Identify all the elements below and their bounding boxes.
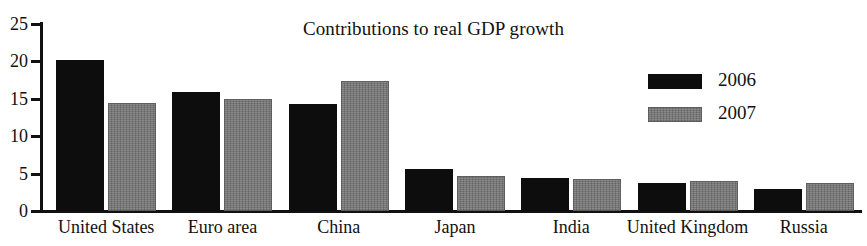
y-axis-tick	[31, 23, 41, 26]
bar-china-2007	[341, 81, 389, 211]
bar-china-2006	[289, 104, 337, 211]
bar-india-2007	[573, 179, 621, 211]
bar-united-states-2006	[56, 60, 104, 211]
bar-united-kingdom-2006	[638, 183, 686, 211]
y-axis-tick	[31, 210, 41, 213]
bar-russia-2007	[806, 183, 854, 211]
clipped-text-above-figure	[0, 0, 867, 6]
y-axis-tick-label: 15	[0, 90, 28, 108]
y-axis-tick-label: 10	[0, 127, 28, 145]
y-axis-tick	[31, 60, 41, 63]
x-axis-label-russia: Russia	[734, 216, 867, 238]
bar-russia-2006	[754, 189, 802, 211]
bar-euro-area-2007	[224, 99, 272, 211]
y-axis-tick-label: 25	[0, 15, 28, 33]
y-axis-tick	[31, 98, 41, 101]
bar-united-states-2007	[108, 103, 156, 211]
y-axis-tick	[31, 173, 41, 176]
bar-euro-area-2006	[172, 92, 220, 211]
y-axis-tick-label: 0	[0, 202, 28, 220]
legend-swatch-2007	[648, 107, 702, 122]
bar-united-kingdom-2007	[690, 181, 738, 211]
bar-japan-2007	[457, 176, 505, 211]
bar-india-2006	[521, 178, 569, 211]
chart-title: Contributions to real GDP growth	[0, 18, 867, 40]
y-axis-line	[40, 22, 43, 213]
y-axis-tick	[31, 135, 41, 138]
gdp-growth-bar-chart: Contributions to real GDP growth 0510152…	[0, 0, 867, 246]
legend-swatch-2006	[648, 74, 702, 89]
legend-label-2006: 2006	[718, 68, 756, 92]
bar-japan-2006	[405, 169, 453, 211]
legend-label-2007: 2007	[718, 101, 756, 125]
y-axis-tick-label: 5	[0, 165, 28, 183]
y-axis-tick-label: 20	[0, 52, 28, 70]
